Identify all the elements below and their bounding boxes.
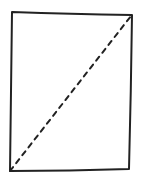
diagram-canvas xyxy=(0,0,142,179)
background xyxy=(0,0,142,179)
